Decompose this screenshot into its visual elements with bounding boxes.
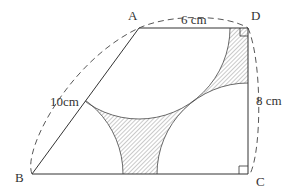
vertex-a-label: A bbox=[128, 8, 138, 23]
vertex-d-label: D bbox=[251, 8, 260, 23]
side-dc-label: 8 cm bbox=[256, 93, 282, 108]
shaded-region bbox=[0, 0, 294, 194]
vertex-b-label: B bbox=[15, 170, 24, 185]
trapezoid-diagram: A D B C 6 cm 10cm 8 cm bbox=[0, 0, 294, 194]
vertex-c-label: C bbox=[256, 174, 265, 189]
diagram-canvas: A D B C 6 cm 10cm 8 cm bbox=[0, 0, 294, 194]
side-ab-label: 10cm bbox=[50, 94, 79, 109]
side-ad-label: 6 cm bbox=[181, 12, 207, 27]
